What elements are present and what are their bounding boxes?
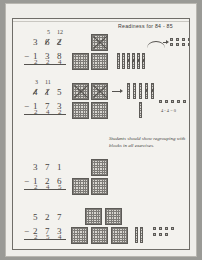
unit-block	[188, 38, 190, 41]
page-header: Readiness for 84 - 85	[118, 23, 173, 29]
problem-3-answer-tens: 4	[46, 184, 50, 191]
problem-1-operator: −	[24, 52, 29, 61]
flat-block	[105, 208, 122, 225]
unit-block	[182, 43, 185, 46]
problem-2-answer-hundreds: 2	[34, 109, 38, 116]
problem-4-minuend-ones: 7	[57, 213, 62, 222]
problem-3-minuend-ones: 1	[57, 163, 62, 172]
worksheet-page: Readiness for 84 - 85 5 12 3 6 2 − 1 3 8…	[6, 4, 196, 256]
flat-block	[91, 53, 108, 70]
problem-2-regroup-hundreds: 3	[35, 79, 38, 85]
problem-3-answer-hundreds: 2	[34, 184, 38, 191]
flat-block	[72, 53, 89, 70]
unit-block	[165, 227, 168, 230]
rod-block	[122, 53, 125, 69]
problem-3-answer-ones: 5	[58, 184, 62, 191]
problem-2-operator: −	[24, 102, 29, 111]
worksheet-content: Readiness for 84 - 85 5 12 3 6 2 − 1 3 8…	[12, 18, 190, 250]
problem-2-answer-tens: 4	[46, 109, 50, 116]
flat-block	[91, 227, 108, 244]
unit-block	[170, 43, 173, 46]
flat-block	[85, 208, 102, 225]
inline-equation-note: 4 - 4 = 0	[161, 108, 176, 113]
unit-block	[159, 227, 162, 230]
problem-1-answer-ones: 4	[58, 59, 62, 66]
problem-2-minuend-ones: 5	[57, 88, 62, 97]
rod-block	[133, 83, 136, 99]
unit-block	[153, 227, 156, 230]
unit-block	[182, 38, 185, 41]
unit-block	[165, 100, 168, 103]
flat-block	[71, 227, 88, 244]
problem-4-minuend-tens: 2	[45, 213, 50, 222]
unit-block	[159, 233, 162, 236]
problem-1-regroup-tens: 5	[47, 29, 50, 35]
problem-3-operator: −	[24, 177, 29, 186]
unit-block	[159, 100, 162, 103]
flat-block	[72, 102, 89, 119]
unit-block	[183, 100, 186, 103]
unit-block	[165, 233, 168, 236]
page-rule	[13, 21, 189, 22]
flat-block	[91, 102, 108, 119]
unit-block	[153, 233, 156, 236]
flat-block	[111, 227, 128, 244]
rod-block	[139, 102, 142, 118]
problem-1-answer-hundreds: 2	[34, 59, 38, 66]
problem-4-operator: −	[24, 227, 29, 236]
problem-2-regroup-tens: 11	[45, 79, 51, 85]
problem-4-answer-hundreds: 2	[34, 234, 38, 241]
rod-block	[135, 227, 138, 243]
rod-block	[140, 227, 143, 243]
problem-2-answer-ones: 2	[58, 109, 62, 116]
unit-block	[170, 38, 173, 41]
problem-1-regroup-ones: 12	[57, 29, 63, 35]
unit-block	[171, 100, 174, 103]
problem-4-answer-ones: 4	[58, 234, 62, 241]
problem-3-minuend-tens: 7	[45, 163, 50, 172]
unit-block	[176, 38, 179, 41]
problem-1-answer-tens: 2	[46, 59, 50, 66]
problem-4-answer-tens: 5	[46, 234, 50, 241]
flat-block	[91, 159, 108, 176]
unit-block	[188, 43, 190, 46]
unit-block	[171, 227, 174, 230]
problem-3-minuend-hundreds: 3	[33, 163, 38, 172]
teacher-note: Students should show regrouping with blo…	[109, 135, 187, 149]
rod-block	[139, 83, 142, 99]
rod-block	[117, 53, 120, 69]
rod-block	[127, 83, 130, 99]
unit-block	[177, 100, 180, 103]
flat-block	[72, 178, 89, 195]
unit-block	[176, 43, 179, 46]
flat-block	[91, 178, 108, 195]
problem-4-minuend-hundreds: 5	[33, 213, 38, 222]
problem-1-minuend-hundreds: 3	[33, 38, 38, 47]
